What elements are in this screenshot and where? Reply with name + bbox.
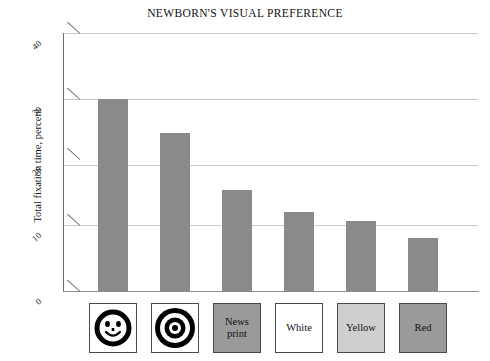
bar-face — [98, 99, 128, 291]
legend-label-white: White — [286, 322, 312, 334]
legend-swatch-bullseye — [151, 303, 199, 353]
bar-newsprint — [222, 190, 252, 291]
chart-title: NEWBORN'S VISUAL PREFERENCE — [0, 7, 490, 19]
legend-label-yellow: Yellow — [346, 322, 376, 334]
bar-red — [408, 238, 438, 291]
y-tick-label-0: 0 — [20, 296, 43, 318]
legend-swatch-newsprint: News print — [213, 303, 261, 353]
bar-yellow — [346, 221, 376, 291]
y-axis-line — [63, 33, 64, 292]
bar-white — [284, 212, 314, 291]
visual-preference-bar-chart: NEWBORN'S VISUAL PREFERENCE Total fixati… — [0, 0, 490, 361]
legend-label-newsprint: News print — [225, 316, 249, 340]
bullseye-icon — [154, 307, 196, 349]
bar-bullseye — [160, 133, 190, 291]
legend-swatch-red: Red — [399, 303, 447, 353]
plot-area — [63, 33, 478, 291]
legend-swatch-row: News print White Yellow Red — [63, 303, 479, 358]
gridline-40 — [63, 33, 478, 34]
x-axis-line — [63, 291, 479, 292]
legend-swatch-face — [89, 303, 137, 353]
legend-swatch-white: White — [275, 303, 323, 353]
y-tick-label-40: 40 — [20, 38, 43, 60]
smiley-face-icon — [93, 308, 133, 348]
legend-swatch-yellow: Yellow — [337, 303, 385, 353]
legend-label-red: Red — [415, 322, 432, 334]
